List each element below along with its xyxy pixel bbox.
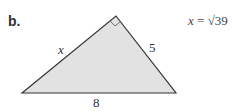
side-label-8: 8 — [93, 95, 100, 111]
side-label-x: x — [58, 42, 64, 58]
right-triangle-figure — [0, 0, 238, 111]
side-label-5: 5 — [149, 40, 156, 56]
